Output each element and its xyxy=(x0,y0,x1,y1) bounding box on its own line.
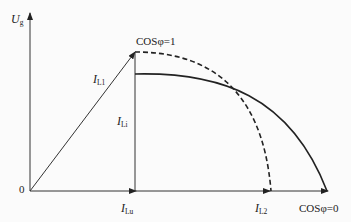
i-lu-label: ILu xyxy=(121,202,133,216)
diagram-svg xyxy=(0,0,351,222)
i-l2-sub: L2 xyxy=(259,207,267,216)
i-l2-label: IL2 xyxy=(255,202,267,216)
cos-phi-0-label: COSφ=0 xyxy=(299,203,338,214)
origin-label: 0 xyxy=(19,184,25,195)
solid-curve xyxy=(135,74,327,191)
i-li-sub: Li xyxy=(121,120,128,129)
i-lu-sub: Lu xyxy=(125,207,133,216)
i-l1-sub: L1 xyxy=(97,78,105,87)
i-li-label: ILi xyxy=(117,115,128,129)
y-axis-label: Ug xyxy=(11,13,23,27)
y-label-main: U xyxy=(11,12,20,26)
cos-phi-1-label: COSφ=1 xyxy=(136,36,175,47)
i-l1-label: IL1 xyxy=(93,73,105,87)
dashed-curve xyxy=(135,52,271,191)
y-label-sub: g xyxy=(20,18,24,27)
diagram-canvas: Ug 0 COSφ=1 IL1 ILi ILu IL2 COSφ=0 xyxy=(0,0,351,222)
